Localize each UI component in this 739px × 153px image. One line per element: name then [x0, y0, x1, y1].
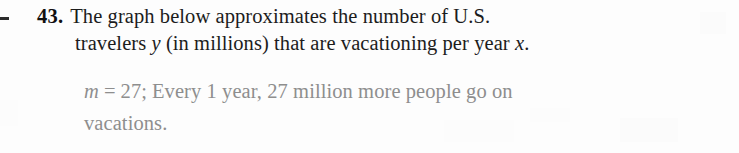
problem-line-2: travelers y (in millions) that are vacat… [75, 32, 529, 55]
problem-text-line-2-part-3: . [524, 32, 529, 54]
problem-text-line-2-part-2: (in millions) that are vacationing per y… [161, 32, 515, 54]
scan-artifact [0, 100, 18, 126]
variable-y: y [152, 32, 161, 54]
problem-number: 43. [37, 5, 63, 27]
scan-artifact [444, 120, 514, 142]
answer-slope-value: 27; [121, 80, 147, 102]
document-page: 43.The graph below approximates the numb… [0, 0, 739, 153]
problem-line-1: 43.The graph below approximates the numb… [37, 5, 490, 28]
answer-text-line-1: Every 1 year, 27 million more people go … [152, 80, 513, 102]
answer-line-2: vacations. [84, 112, 167, 135]
scan-artifact [530, 108, 570, 122]
answer-slope-variable: m [84, 80, 99, 102]
variable-x: x [515, 32, 524, 54]
scan-artifact [620, 118, 678, 142]
problem-text-line-2-part-1: travelers [75, 32, 152, 54]
answer-line-1: m=27;Every 1 year, 27 million more peopl… [84, 80, 513, 103]
answer-equals-sign: = [104, 80, 116, 102]
margin-dash-mark [0, 17, 9, 20]
problem-text-line-1: The graph below approximates the number … [70, 5, 490, 27]
scan-artifact [700, 12, 726, 34]
